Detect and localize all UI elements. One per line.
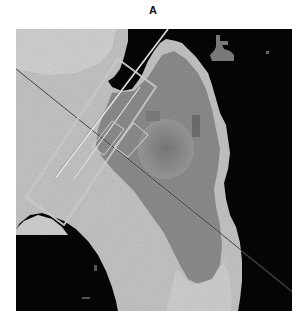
panel-label: A xyxy=(0,4,306,16)
speck xyxy=(82,297,90,299)
raster-map-figure xyxy=(16,29,292,311)
speck xyxy=(94,265,97,271)
raster-map-canvas xyxy=(16,29,292,311)
